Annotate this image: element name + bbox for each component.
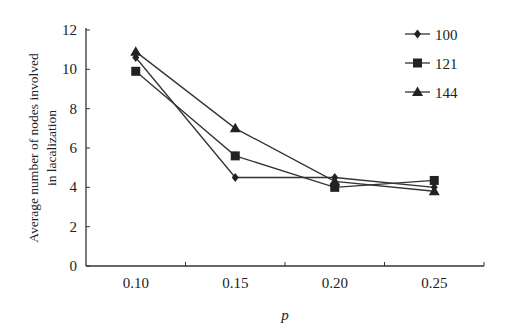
legend-label: 144 [435, 85, 458, 101]
legend: 100121144 [405, 27, 458, 101]
y-tick-label: 10 [62, 61, 77, 77]
diamond-marker-icon [414, 30, 421, 39]
triangle-marker-icon [230, 123, 241, 132]
series-line [136, 71, 435, 187]
y-tick-label: 0 [70, 258, 78, 274]
line-chart: 0246810120.100.150.200.25 100121144 p Av… [0, 0, 512, 333]
y-tick-label: 2 [70, 219, 78, 235]
y-axis-label-line1: Average number of nodes involved [26, 53, 41, 243]
square-marker-icon [430, 176, 439, 185]
y-tick-label: 6 [70, 140, 78, 156]
x-tick-label: 0.25 [421, 275, 447, 291]
square-marker-icon [413, 59, 422, 68]
x-tick-label: 0.10 [123, 275, 149, 291]
series-group [130, 46, 440, 195]
legend-label: 100 [435, 27, 458, 43]
triangle-marker-icon [412, 87, 423, 97]
legend-item-121: 121 [405, 56, 458, 72]
y-tick-label: 12 [62, 22, 77, 38]
series-121 [131, 67, 439, 192]
square-marker-icon [231, 151, 240, 160]
chart-canvas: 0246810120.100.150.200.25 100121144 p Av… [0, 0, 512, 333]
square-marker-icon [131, 67, 140, 76]
x-tick-label: 0.15 [222, 275, 248, 291]
y-tick-label: 4 [70, 179, 78, 195]
triangle-marker-icon [130, 46, 141, 56]
legend-item-100: 100 [405, 27, 458, 43]
y-axis-label-line2: in lacalization [44, 110, 59, 186]
series-line [136, 52, 435, 192]
series-line [136, 58, 435, 188]
x-axis-label: p [280, 307, 289, 323]
x-tick-label: 0.20 [322, 275, 348, 291]
legend-label: 121 [435, 56, 458, 72]
legend-item-144: 144 [405, 85, 458, 101]
series-144 [130, 46, 440, 195]
y-tick-label: 8 [70, 101, 78, 117]
